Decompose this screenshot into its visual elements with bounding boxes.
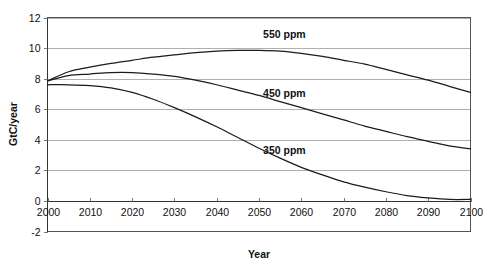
- y-tick-label-10: 10: [29, 42, 41, 54]
- y-tick-label-4: 4: [35, 134, 41, 146]
- y-tick-label-2: 2: [35, 164, 41, 176]
- x-tick-label-2080: 2080: [375, 206, 399, 218]
- x-axis-title: Year: [248, 248, 270, 260]
- y-axis-title: GtC/year: [7, 102, 19, 146]
- series-line-550-ppm: [48, 50, 471, 92]
- y-tick-label-12: 12: [29, 12, 41, 24]
- series-annotation-550-ppm: 550 ppm: [263, 28, 306, 40]
- y-tick-label--2: -2: [31, 226, 40, 238]
- x-tick-label-2020: 2020: [121, 206, 145, 218]
- series-annotation-350-ppm: 350 ppm: [263, 144, 306, 156]
- x-tick-label-2010: 2010: [79, 206, 103, 218]
- x-tick-label-2000: 2000: [37, 206, 61, 218]
- series-annotation-450-ppm: 450 ppm: [263, 87, 306, 99]
- x-tick-label-2100: 2100: [460, 206, 484, 218]
- x-tick-label-2040: 2040: [206, 206, 230, 218]
- series-line-350-ppm: [48, 85, 471, 200]
- series-line-450-ppm: [48, 72, 471, 149]
- x-tick-label-2060: 2060: [290, 206, 314, 218]
- plot-frame: [48, 18, 471, 232]
- chart-canvas: -202468101220002010202020302040205020602…: [0, 0, 500, 270]
- y-tick-label-6: 6: [35, 103, 41, 115]
- x-tick-label-2030: 2030: [163, 206, 187, 218]
- x-tick-label-2070: 2070: [333, 206, 357, 218]
- x-tick-label-2090: 2090: [417, 206, 441, 218]
- emissions-line-chart: -202468101220002010202020302040205020602…: [0, 0, 500, 270]
- y-tick-label-8: 8: [35, 73, 41, 85]
- x-tick-label-2050: 2050: [248, 206, 272, 218]
